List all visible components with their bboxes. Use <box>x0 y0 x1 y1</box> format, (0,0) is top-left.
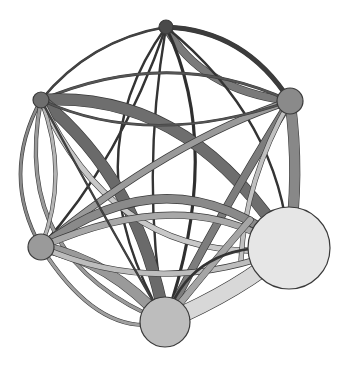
node-n5 <box>140 297 190 347</box>
node-n1 <box>159 20 173 34</box>
node-n2 <box>33 92 49 108</box>
node-n4 <box>28 234 54 260</box>
node-n3 <box>277 88 303 114</box>
edge-outline <box>41 27 166 100</box>
edge-layer <box>21 27 295 325</box>
network-diagram <box>0 0 347 370</box>
edge <box>41 27 166 100</box>
node-n6 <box>248 207 330 289</box>
